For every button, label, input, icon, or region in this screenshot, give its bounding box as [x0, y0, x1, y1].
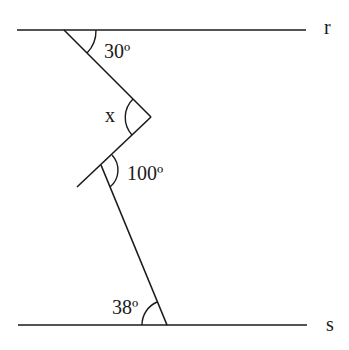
line-r-label: r: [324, 16, 331, 38]
diagram-canvas: r s 30º x 100º 38º: [0, 0, 349, 350]
arc-38: [142, 302, 157, 325]
arc-30: [87, 30, 96, 53]
arc-100: [110, 155, 118, 187]
angle-x-label: x: [105, 104, 115, 126]
geometry-figure: r s 30º x 100º 38º: [0, 0, 349, 350]
angle-100-label: 100º: [127, 162, 163, 184]
line-s-label: s: [326, 313, 334, 335]
angle-30-label: 30º: [104, 40, 130, 62]
angle-38-label: 38º: [112, 296, 138, 318]
arc-x: [125, 99, 133, 135]
